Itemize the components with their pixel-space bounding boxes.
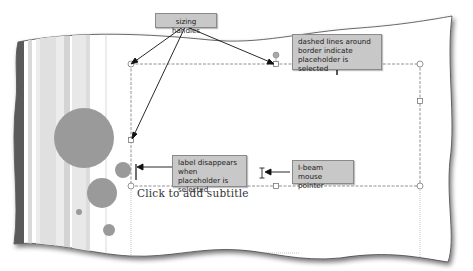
slide-illustration <box>0 0 473 271</box>
callout-ibeam-pointer: I-beam mouse pointer <box>292 160 354 184</box>
subtitle-placeholder-label[interactable]: Click to add subtitle <box>137 187 249 199</box>
callout-sizing-handles: sizing handles <box>155 13 217 28</box>
figure-stage: sizing handles dashed lines around borde… <box>0 0 473 271</box>
callout-label-disappears: label disappears when placeholder is sel… <box>172 155 247 187</box>
callout-dashed-lines: dashed lines around border indicate plac… <box>292 34 382 70</box>
rotation-handle <box>273 52 279 58</box>
